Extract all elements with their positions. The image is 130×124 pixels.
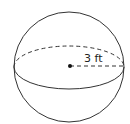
equator-front — [14, 67, 124, 89]
equator-back-dashed — [14, 46, 124, 67]
sphere-diagram: 3 ft — [0, 0, 130, 124]
radius-label: 3 ft — [84, 52, 103, 65]
center-point — [68, 64, 72, 68]
